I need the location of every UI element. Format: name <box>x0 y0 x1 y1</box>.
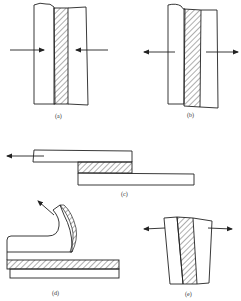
adherend-right <box>200 10 218 108</box>
figure-canvas: (a) (b) (c) (d) (e) <box>0 0 241 301</box>
panel-e: (e) <box>144 217 232 298</box>
adhesive-layer <box>177 217 197 284</box>
adherend-edge <box>7 252 72 260</box>
panel-label-c: (c) <box>121 191 128 198</box>
panel-b: (b) <box>144 4 238 119</box>
panel-label-b: (b) <box>187 112 194 119</box>
adhesive-layer <box>78 162 132 173</box>
panel-label-d: (d) <box>52 290 59 297</box>
adherend-left <box>168 4 185 104</box>
panel-c: (c) <box>7 150 194 198</box>
panel-label-a: (a) <box>55 113 62 120</box>
adhesive-layer <box>184 9 201 107</box>
adherend-bottom <box>78 173 194 185</box>
arrow-cleavage-left-icon <box>144 228 165 229</box>
adhesive-layer <box>54 8 68 104</box>
arrow-peel-icon <box>38 201 54 215</box>
peeling-adherend <box>7 205 72 252</box>
panel-a: (a) <box>10 3 108 120</box>
adhesive-layer <box>7 260 119 269</box>
panel-d: (d) <box>7 201 119 297</box>
adherend-right <box>68 7 88 105</box>
adherend-bottom <box>10 269 119 278</box>
adherend-top <box>33 150 132 162</box>
adherend-left <box>34 3 55 104</box>
panel-label-e: (e) <box>185 291 192 298</box>
